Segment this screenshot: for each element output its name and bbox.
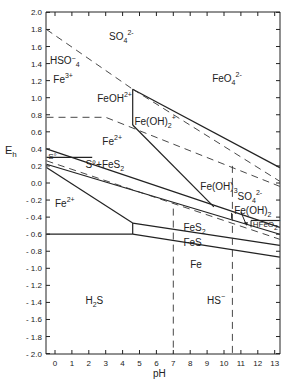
x-tick-label: 0 (53, 359, 58, 368)
x-tick-label: 6 (154, 359, 159, 368)
region-so4-lower: SO42- (238, 189, 263, 204)
region-s0: S° (48, 152, 57, 161)
y-tick-label: - 1.8 (26, 333, 43, 342)
y-tick-label: 2.0 (31, 8, 43, 17)
dashed-boundary-line (133, 89, 280, 181)
plot-frame (46, 12, 280, 354)
x-tick-label: 8 (188, 359, 193, 368)
region-feoh2plus: FeOH2+ (97, 91, 132, 104)
y-tick-label: - 1.6 (26, 315, 43, 324)
x-tick-label: 3 (103, 359, 108, 368)
dashed-boundary-line (47, 117, 280, 186)
y-tick-label: - 0.6 (26, 230, 43, 239)
region-feoh2-neutral: Fe(OH)2 (234, 205, 271, 218)
region-fe3: Fe3+ (53, 72, 73, 85)
solid-boundary-line (133, 125, 214, 207)
y-tick-label: 1.8 (31, 25, 43, 34)
y-tick-label: 0.6 (31, 128, 43, 137)
region-fe2-lower: Fe2+ (55, 196, 75, 209)
x-tick-label: 13 (270, 359, 279, 368)
y-tick-label: 1.2 (31, 77, 43, 86)
y-tick-label: 0.4 (31, 145, 43, 154)
region-hfeo2: HFeO2- (253, 216, 281, 231)
y-tick-label: 1.0 (31, 94, 43, 103)
x-tick-label: 2 (87, 359, 92, 368)
x-tick-label: 9 (205, 359, 210, 368)
region-feo4: FeO42- (212, 71, 242, 86)
y-tick-label: - 0.4 (26, 213, 43, 222)
y-axis-label-sub: h (12, 150, 16, 159)
region-so4-upper: SO42- (109, 29, 134, 44)
y-tick-label: 0.0 (31, 179, 43, 188)
y-tick-label: - 2.0 (26, 350, 43, 359)
region-hso4: HSO−4 (50, 55, 80, 68)
y-tick-label: - 0.2 (26, 196, 43, 205)
region-s0-fes2: S°+FeS2 (85, 159, 124, 172)
x-axis-label: pH (153, 368, 166, 379)
x-tick-label: 12 (253, 359, 262, 368)
x-tick-label: 1 (70, 359, 75, 368)
region-hs: HS− (207, 293, 225, 306)
y-tick-label: 1.6 (31, 43, 43, 52)
y-tick-label: - 0.8 (26, 247, 43, 256)
region-labels: SO42-HSO−4Fe3+FeOH2+Fe(OH)2+FeO42-Fe2+S°… (48, 29, 281, 308)
y-tick-label: 0.2 (31, 162, 43, 171)
region-feoh2-cation: Fe(OH)2+ (134, 114, 175, 129)
solid-boundary-line (47, 168, 133, 224)
y-axis-label: Eh (5, 144, 17, 159)
solid-boundary-line (133, 89, 280, 167)
y-tick-label: - 1.4 (26, 298, 43, 307)
solid-boundary-line (133, 234, 280, 257)
y-axis-label-main: E (5, 144, 12, 156)
x-tick-label: 10 (220, 359, 229, 368)
region-fes: FeS (183, 237, 202, 248)
x-tick-label: 11 (237, 359, 246, 368)
y-tick-label: - 1.2 (26, 281, 43, 290)
y-tick-label: - 1.0 (26, 264, 43, 273)
region-fe: Fe (190, 259, 202, 270)
pourbaix-diagram: 0123456789101112132.01.81.61.41.21.00.80… (0, 0, 303, 385)
x-tick-label: 5 (137, 359, 142, 368)
region-fe2-upper: Fe2+ (102, 134, 122, 147)
y-tick-label: 0.8 (31, 111, 43, 120)
x-tick-label: 7 (171, 359, 176, 368)
y-tick-label: 1.4 (31, 60, 43, 69)
region-h2s: H2S (85, 295, 103, 308)
x-tick-label: 4 (120, 359, 125, 368)
